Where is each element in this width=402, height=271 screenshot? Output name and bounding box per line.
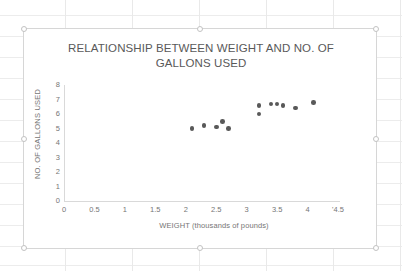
data-point[interactable] bbox=[257, 112, 262, 117]
plot-area[interactable] bbox=[24, 29, 378, 250]
data-point[interactable] bbox=[220, 119, 225, 124]
chart-object[interactable]: RELATIONSHIP BETWEEN WEIGHT AND NO. OF G… bbox=[23, 28, 377, 249]
data-point[interactable] bbox=[202, 123, 207, 128]
data-point[interactable] bbox=[257, 103, 262, 108]
x-axis-tick-label: 1 bbox=[110, 205, 140, 214]
data-point[interactable] bbox=[293, 106, 298, 111]
data-point[interactable] bbox=[311, 100, 316, 105]
data-point[interactable] bbox=[226, 126, 231, 131]
x-axis-tick-label: 4 bbox=[293, 205, 323, 214]
x-axis-tick-label: 3 bbox=[232, 205, 262, 214]
data-point[interactable] bbox=[214, 125, 219, 130]
data-point[interactable] bbox=[275, 102, 280, 107]
x-axis-tick-label: 1.5 bbox=[140, 205, 170, 214]
data-point[interactable] bbox=[190, 126, 195, 131]
x-axis-tick-label: 0.5 bbox=[79, 205, 109, 214]
x-axis-tick-label: 2 bbox=[171, 205, 201, 214]
x-axis-title[interactable]: WEIGHT (thousands of pounds) bbox=[64, 221, 364, 230]
x-axis-tick-label: 2.5 bbox=[201, 205, 231, 214]
x-axis-tick-label: 0 bbox=[49, 205, 79, 214]
data-point[interactable] bbox=[269, 102, 274, 107]
x-axis-tick-label: '4.5 bbox=[323, 205, 353, 214]
data-point[interactable] bbox=[281, 103, 286, 108]
x-axis-tick-label: 3.5 bbox=[262, 205, 292, 214]
